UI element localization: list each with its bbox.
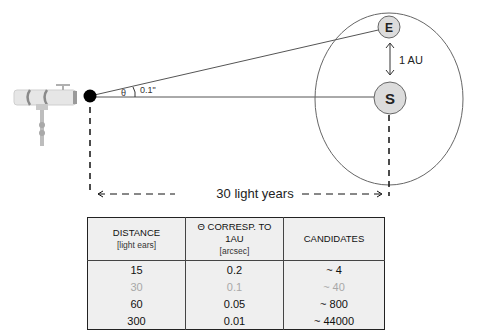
table-row: 15 0.2 ~ 4 xyxy=(88,261,385,279)
sun-label: S xyxy=(385,90,395,107)
table-row: 60 0.05 ~ 800 xyxy=(88,295,385,312)
table-row-highlighted: 30 0.1 ~ 40 xyxy=(88,278,385,295)
theta-symbol: θ xyxy=(121,88,126,98)
line-to-earth xyxy=(90,28,387,96)
table-row: 300 0.01 ~ 44000 xyxy=(88,312,385,330)
header-distance: DISTANCE [light ears] xyxy=(88,218,186,261)
distance-label: 30 light years xyxy=(190,186,320,201)
table-header-row: DISTANCE [light ears] Θ CORRESP. TO 1AU … xyxy=(88,218,385,261)
header-candidates: CANDIDATES xyxy=(284,218,385,261)
candidates-table: DISTANCE [light ears] Θ CORRESP. TO 1AU … xyxy=(87,217,385,330)
earth-label: E xyxy=(385,21,393,35)
angle-label: 0.1" xyxy=(140,85,156,95)
telescope-icon xyxy=(14,84,77,146)
angle-arc xyxy=(133,87,135,97)
observer-dot xyxy=(84,90,97,103)
header-theta: Θ CORRESP. TO 1AU [arcsec] xyxy=(186,218,284,261)
au-label: 1 AU xyxy=(399,54,423,66)
